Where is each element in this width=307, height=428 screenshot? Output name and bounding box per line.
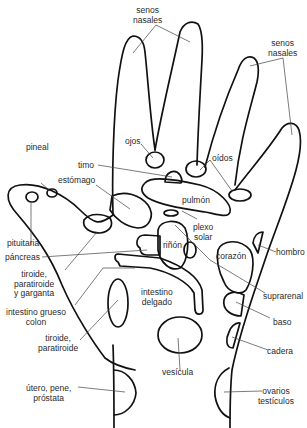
label-senos-nasales-2: senos nasales [268,39,297,58]
label-pituitaria: pituitaria [7,239,39,249]
organ-hombro [253,232,263,253]
organ-utero [114,370,136,415]
label-cadera: cadera [267,347,293,357]
organ-oido-2 [229,189,251,201]
label-baso: baso [273,318,291,328]
label-oidos: oídos [212,154,233,164]
organ-pancreas-thyroid [84,215,112,234]
middle-finger-outline [155,22,202,165]
label-tiroide-garganta: tiroide, paratiroide y garganta [14,270,54,299]
label-intestino-grueso: intestino grueso colon [6,308,66,327]
label-pancreas: páncreas [5,253,40,263]
ring-finger-outline [205,57,258,185]
organ-vesicula [158,317,202,353]
hand-reflexology-diagram: senos nasales senos nasales pineal ojos … [0,0,307,428]
organ-oido-1 [186,161,206,177]
organ-ovarios [215,368,230,418]
label-intestino-delgado: intestino delgado [141,288,173,307]
label-utero: útero, pene, próstata [26,384,71,403]
label-timo: timo [78,161,94,171]
label-ovarios: ovarios testículos [258,387,294,406]
organ-ojos [146,152,164,168]
label-tiroide-paratiroide: tiroide, paratiroide [38,334,78,353]
label-senos-nasales-1: senos nasales [133,6,162,25]
label-hombro: hombro [276,248,305,258]
hand-outline-drawing [0,0,307,428]
label-plexo-solar: plexo solar [193,223,213,242]
little-finger-outline [230,123,300,428]
organ-plexo-solar [164,210,178,216]
label-pulmon: pulmón [182,196,210,206]
label-estomago: estómago [58,176,95,186]
index-finger-outline [113,36,155,215]
organ-pancreas [137,235,160,255]
label-rinon: riñón [163,241,182,251]
organ-estomago [110,193,151,228]
organ-intestino-grueso [108,279,128,327]
organ-pituitaria [26,192,38,202]
label-pineal: pineal [26,143,49,153]
label-vesicula: vesícula [162,368,193,378]
label-ojos: ojos [125,137,141,147]
label-suprarenal: suprarenal [263,292,303,302]
label-corazon: corazón [216,252,246,262]
